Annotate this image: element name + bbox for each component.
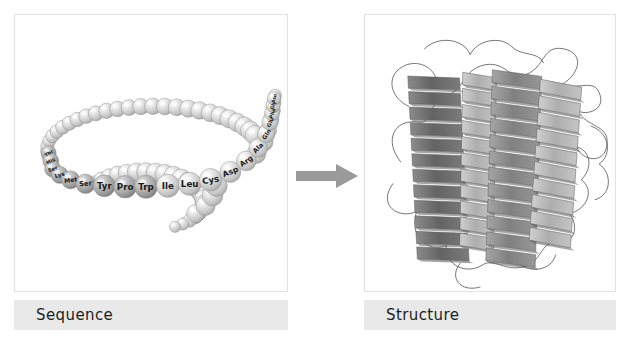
bead-specular-highlight bbox=[194, 105, 200, 109]
bead-specular-highlight bbox=[112, 104, 117, 108]
structure-panel bbox=[364, 14, 616, 292]
bead-specular-highlight bbox=[171, 223, 175, 226]
bead-specular-highlight bbox=[249, 129, 256, 134]
bead-specular-highlight bbox=[179, 220, 183, 223]
bead-specular-highlight bbox=[131, 167, 137, 171]
coil-strand bbox=[425, 40, 544, 62]
bead-specular-highlight bbox=[136, 102, 141, 106]
bead-specular-highlight bbox=[73, 115, 78, 118]
bead-specular-highlight bbox=[101, 106, 106, 110]
bead-specular-highlight bbox=[159, 102, 165, 106]
amino-acid-label: Ile bbox=[162, 181, 174, 191]
coil-strand bbox=[591, 126, 608, 199]
sequence-caption-label: Sequence bbox=[36, 306, 113, 324]
bead-specular-highlight bbox=[171, 102, 177, 106]
bead-specular-highlight bbox=[81, 112, 86, 116]
structure-caption-bar: Structure bbox=[364, 300, 616, 330]
amino-acid-label: Tyr bbox=[97, 181, 112, 191]
bead-specular-highlight bbox=[223, 113, 229, 117]
figure-root: ThrHisSerLysMetSerTyrProTrpIleLeuCysAspA… bbox=[0, 0, 629, 348]
bead-specular-highlight bbox=[214, 110, 220, 114]
amino-acid-bead bbox=[169, 221, 180, 232]
bead-specular-highlight bbox=[190, 208, 196, 212]
sequence-caption-bar: Sequence bbox=[14, 300, 288, 330]
amino-acid-label: Pro bbox=[117, 182, 134, 192]
bead-specular-highlight bbox=[159, 168, 166, 173]
bead-specular-highlight bbox=[121, 168, 127, 172]
amino-acid-label: Leu bbox=[181, 179, 199, 189]
bead-specular-highlight bbox=[65, 119, 70, 122]
bead-specular-highlight bbox=[140, 166, 146, 170]
structure-caption-label: Structure bbox=[386, 306, 459, 324]
amino-acid-label: Trp bbox=[138, 182, 154, 192]
sequence-panel: ThrHisSerLysMetSerTyrProTrpIleLeuCysAspA… bbox=[14, 14, 288, 292]
alpha-helix-group bbox=[408, 70, 586, 270]
transition-arrow-icon bbox=[296, 163, 358, 189]
bead-specular-highlight bbox=[183, 103, 189, 107]
bead-specular-highlight bbox=[204, 107, 210, 111]
bead-specular-highlight bbox=[91, 109, 96, 113]
structure-illustration bbox=[365, 15, 615, 291]
bead-specular-highlight bbox=[124, 103, 129, 107]
bead-specular-highlight bbox=[149, 167, 155, 172]
bead-specular-highlight bbox=[148, 101, 154, 105]
bead-specular-highlight bbox=[112, 169, 118, 173]
amino-acid-label: Ser bbox=[79, 179, 93, 188]
sequence-illustration: ThrHisSerLysMetSerTyrProTrpIleLeuCysAspA… bbox=[15, 15, 287, 291]
